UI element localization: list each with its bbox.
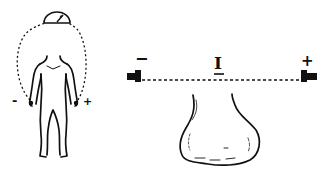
body-figure-illustration (0, 0, 120, 176)
positive-electrode-icon (301, 70, 317, 82)
negative-terminal-label: - (12, 94, 17, 107)
circuit-wire-right (68, 23, 86, 100)
negative-electrode-icon (127, 70, 141, 82)
positive-terminal-label: + (83, 96, 92, 107)
left-hand-electrode (29, 101, 33, 105)
galvanometer-icon (44, 12, 70, 23)
right-hand-electrode (74, 101, 78, 105)
tissue-shape-icon (180, 94, 259, 165)
current-label: I (214, 55, 222, 72)
positive-electrode-label: + (301, 54, 314, 69)
human-figure-icon (30, 56, 78, 157)
body-circuit-diagram: - + (0, 0, 120, 176)
tissue-current-diagram: I − + (120, 0, 328, 176)
negative-electrode-label: − (135, 51, 148, 67)
tissue-illustration (120, 0, 328, 176)
